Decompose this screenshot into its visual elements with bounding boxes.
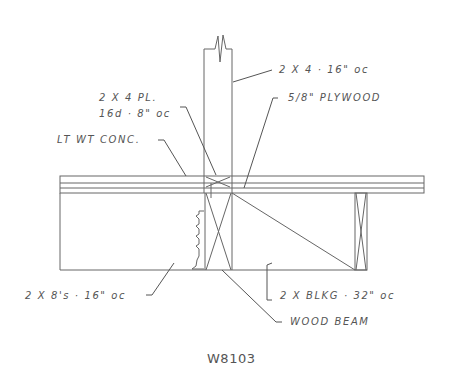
plate-label-line2: 16d · 8" oc	[99, 108, 171, 119]
wood-beam	[205, 193, 232, 270]
stud-2x4	[204, 35, 232, 193]
joist-label: 2 X 8's · 16" oc	[25, 290, 126, 301]
plate-label-line1: 2 X 4 PL.	[99, 92, 157, 103]
blocking	[355, 193, 367, 270]
blocking-label: 2 X BLKG · 32" oc	[280, 290, 395, 301]
concrete-label: LT WT CONC.	[57, 134, 140, 145]
joist-hanger	[192, 211, 204, 269]
plywood-label: 5/8" PLYWOOD	[288, 92, 381, 103]
beam-diagonal	[232, 193, 355, 270]
floor-joist	[60, 193, 367, 270]
stud-label: 2 X 4 · 16" oc	[279, 64, 369, 75]
drawing-id: W8103	[207, 351, 255, 366]
detail-linework	[0, 0, 449, 378]
beam-label: WOOD BEAM	[290, 316, 370, 327]
construction-detail-drawing: 2 X 4 · 16" oc 2 X 4 PL. 16d · 8" oc 5/8…	[0, 0, 449, 378]
floor-slab	[60, 176, 424, 193]
